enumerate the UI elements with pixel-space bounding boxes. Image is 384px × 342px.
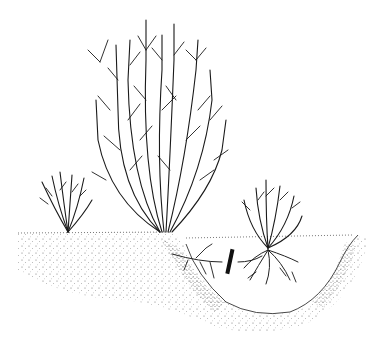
rooted-offshoot-right [242,180,302,284]
small-shrub-left [40,172,92,232]
soil [18,232,366,332]
cut-mark [225,249,234,274]
illustration-canvas [0,0,384,342]
shrub-division-illustration [0,0,384,342]
large-shrub-center [88,20,228,232]
